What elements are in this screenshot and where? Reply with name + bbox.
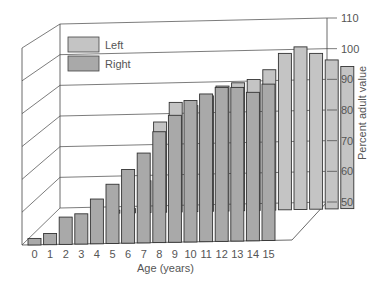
legend-label-right: Right [105,58,131,70]
bar-right-age-11 [200,94,213,242]
bar-right-age-1 [44,234,57,245]
x-tick-label: 12 [216,248,228,260]
bar-right-age-3 [75,214,88,244]
x-tick-label: 2 [63,248,69,260]
gridline-left-wall [22,116,60,147]
x-tick-label: 14 [247,248,259,260]
x-axis-ticks: 0123456789101112131415 [31,248,274,260]
gridline-left-wall [22,177,60,212]
gridline-back [60,18,327,24]
bar-right-age-4 [90,199,103,244]
bar-right-age-7 [137,153,150,243]
bar-left-age-14 [278,53,291,209]
x-tick-label: 9 [172,248,178,260]
y-tick-label: 90 [341,73,353,85]
gridline-left-wall [22,147,60,180]
bar-left-age-16 [310,53,323,209]
bar-right-age-14 [246,92,259,240]
x-tick-label: 15 [262,248,274,260]
y-tick-label: 50 [341,196,353,208]
x-tick-label: 10 [184,248,196,260]
x-tick-label: 8 [156,248,162,260]
bar-left-age-15 [294,47,307,210]
x-tick-label: 11 [200,248,211,260]
y-tick-label: 80 [341,104,353,116]
bar-chart-3d: 5060708090100110 0123456789101112131415 … [0,0,385,286]
legend-label-left: Left [105,39,123,51]
bar-right-age-8 [153,132,166,243]
bar-left-age-17 [325,60,338,209]
y-axis-title: Percent adult value [356,66,368,160]
y-tick-label: 110 [341,12,359,24]
gridline-left-wall [22,24,60,48]
bar-right-age-0 [28,238,41,245]
legend-swatch-left [68,37,99,52]
x-tick-label: 7 [141,248,147,260]
bar-right-age-5 [106,184,119,243]
y-tick-label: 70 [341,135,353,147]
bar-right-age-9 [168,115,181,242]
legend-swatch-right [68,56,99,71]
x-tick-label: 1 [47,248,53,260]
x-axis-title: Age (years) [137,262,194,274]
bar-right-age-15 [262,84,275,240]
bar-right-age-10 [184,101,197,242]
gridline-left-wall [22,85,60,113]
x-tick-label: 5 [109,248,115,260]
bar-right-age-13 [231,87,244,241]
x-tick-label: 13 [231,248,243,260]
bar-right-age-2 [59,217,72,244]
x-tick-label: 3 [78,248,84,260]
x-tick-label: 6 [125,248,131,260]
y-tick-label: 60 [341,165,353,177]
gridline-left-wall [22,55,60,81]
bar-right-age-6 [122,169,135,243]
bar-right-age-12 [215,87,228,241]
x-tick-label: 4 [94,248,100,260]
x-tick-label: 0 [31,248,37,260]
y-tick-label: 100 [341,43,359,55]
series-right-bars [28,84,275,245]
